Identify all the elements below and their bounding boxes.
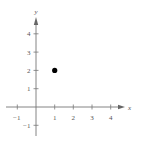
svg-text:2: 2 bbox=[27, 67, 31, 75]
svg-text:1: 1 bbox=[27, 85, 31, 93]
svg-text:2: 2 bbox=[72, 114, 76, 122]
svg-text:1: 1 bbox=[53, 114, 57, 122]
data-point bbox=[52, 68, 57, 73]
y-tick-labels: 4 3 2 1 −1 bbox=[23, 30, 31, 130]
x-axis-label: x bbox=[127, 104, 132, 112]
coordinate-plane: x y −1 1 2 3 4 4 3 2 1 −1 bbox=[0, 0, 145, 147]
x-axis-arrow-icon bbox=[118, 105, 125, 109]
y-axis-arrow-icon bbox=[34, 17, 38, 25]
x-tick-labels: −1 1 2 3 4 bbox=[13, 114, 113, 122]
svg-text:3: 3 bbox=[27, 49, 31, 57]
y-axis-label: y bbox=[34, 8, 39, 16]
svg-text:−1: −1 bbox=[23, 122, 31, 130]
svg-text:3: 3 bbox=[90, 114, 94, 122]
svg-text:4: 4 bbox=[27, 30, 31, 38]
svg-text:4: 4 bbox=[109, 114, 113, 122]
svg-text:−1: −1 bbox=[13, 114, 21, 122]
